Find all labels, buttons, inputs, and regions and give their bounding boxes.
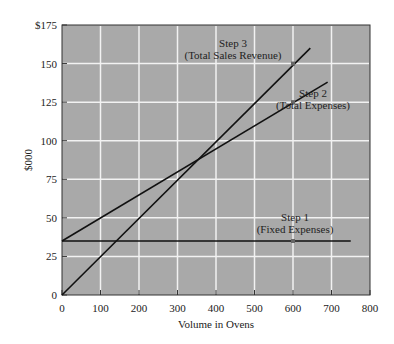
y-tick-label: 50 bbox=[46, 212, 58, 224]
x-tick-label: 600 bbox=[285, 302, 302, 314]
x-tick-label: 800 bbox=[362, 302, 379, 314]
breakeven-chart: 0100200300400500600700800025507510012515… bbox=[0, 0, 394, 344]
y-tick-label: 125 bbox=[41, 96, 58, 108]
x-tick-label: 400 bbox=[208, 302, 225, 314]
x-tick-label: 500 bbox=[246, 302, 263, 314]
x-tick-label: 700 bbox=[323, 302, 340, 314]
annotation-desc: (Total Sales Revenue) bbox=[185, 49, 282, 62]
y-tick-label: 150 bbox=[41, 58, 58, 70]
y-axis-label: $000 bbox=[22, 149, 34, 172]
annotation-desc: (Total Expenses) bbox=[276, 99, 350, 112]
y-tick-label: 100 bbox=[41, 135, 58, 147]
y-tick-label: 0 bbox=[52, 289, 58, 301]
annotation-step: Step 1 bbox=[281, 211, 309, 223]
annotation-step: Step 2 bbox=[299, 87, 327, 99]
x-axis-label: Volume in Ovens bbox=[178, 318, 254, 330]
y-tick-label: 25 bbox=[46, 250, 58, 262]
x-tick-label: 100 bbox=[92, 302, 109, 314]
y-tick-label: $175 bbox=[35, 19, 58, 31]
annotation-step: Step 3 bbox=[219, 37, 247, 49]
y-tick-label: 75 bbox=[46, 173, 58, 185]
x-tick-label: 200 bbox=[131, 302, 148, 314]
x-tick-label: 300 bbox=[169, 302, 186, 314]
x-tick-label: 0 bbox=[59, 302, 65, 314]
annotation-desc: (Fixed Expenses) bbox=[257, 223, 334, 236]
